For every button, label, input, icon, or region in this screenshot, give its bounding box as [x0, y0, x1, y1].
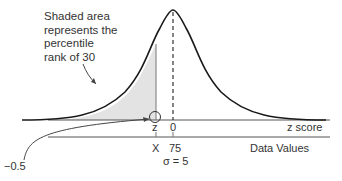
- data-values-axis-label: Data Values: [250, 142, 309, 155]
- sigma-label: σ = 5: [163, 155, 188, 168]
- z-tick-label: z: [152, 121, 158, 134]
- x-tick-label: X: [152, 142, 159, 155]
- annotation-line: percentile: [44, 37, 164, 51]
- z-value-callout: −0.5: [4, 160, 26, 173]
- annotation-line: rank of 30: [44, 51, 164, 65]
- annotation-line: Shaded area: [44, 10, 164, 24]
- z-score-axis-label: z score: [287, 121, 322, 134]
- annotation-text: Shaded area represents the percentile ra…: [44, 10, 164, 64]
- mean-tick-label: 75: [169, 142, 181, 155]
- z-value-arrow: [24, 119, 149, 160]
- annotation-line: represents the: [44, 24, 164, 38]
- zero-tick-label: 0: [170, 121, 176, 134]
